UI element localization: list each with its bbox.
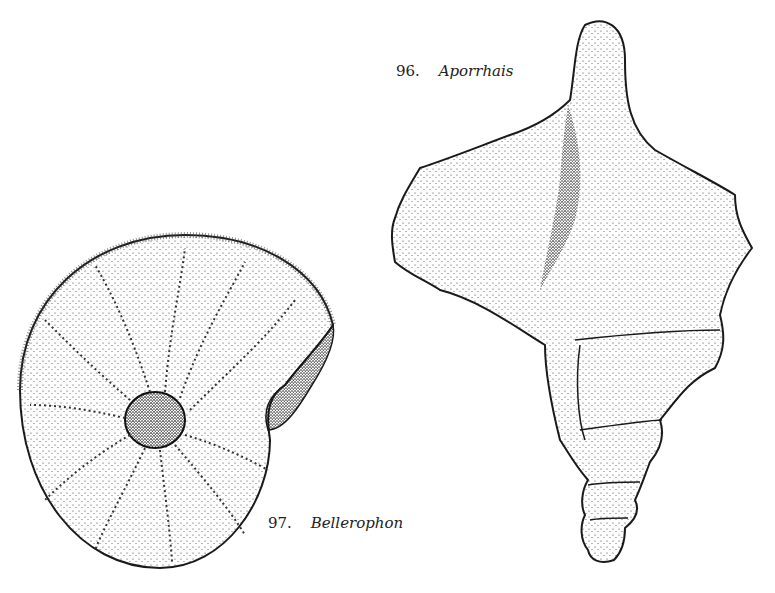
species-name: Bellerophon	[311, 514, 404, 532]
figure-number: 97.	[268, 514, 292, 532]
caption-aporrhais: 96. Aporrhais	[396, 62, 514, 80]
figure-number: 96.	[396, 62, 420, 80]
aporrhais-shell-drawing	[392, 21, 752, 562]
caption-bellerophon: 97. Bellerophon	[268, 514, 403, 532]
illustration-canvas	[0, 0, 775, 593]
species-name: Aporrhais	[439, 62, 514, 80]
